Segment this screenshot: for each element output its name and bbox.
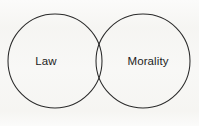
venn-label-law: Law	[35, 56, 56, 68]
venn-label-morality: Morality	[127, 56, 168, 68]
venn-diagram-figure: Law Morality	[0, 0, 199, 126]
venn-circles-canvas	[0, 0, 199, 126]
